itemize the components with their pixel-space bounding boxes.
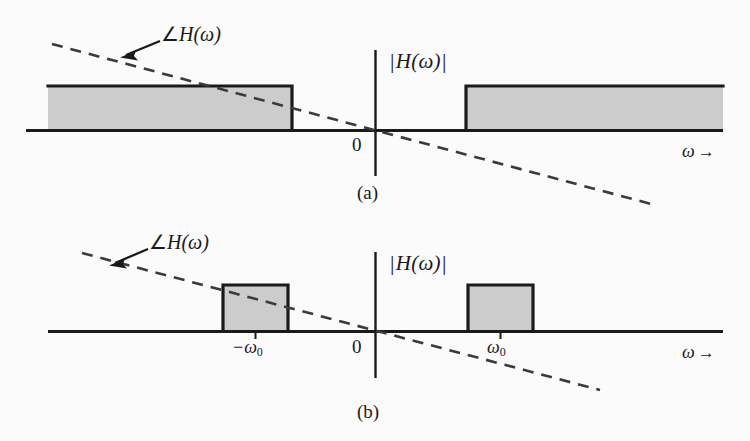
- panel-b-magnitude-label-text: H(ω): [396, 251, 441, 275]
- panel-a-magnitude-label-text: H(ω): [396, 49, 441, 73]
- panel-b-tick-positive-omega-subscript: 0: [500, 345, 506, 359]
- panel-b-phase-label: ∠H(ω): [149, 230, 209, 254]
- panel-a-band-right-fill: [466, 87, 723, 130]
- panel-b-tick-label-positive-omega0: ω0: [487, 337, 506, 360]
- panel-b-band-right-fill: [469, 286, 533, 331]
- panel-a-graphics: [26, 41, 730, 205]
- panel-b-phase-label-text: H(ω): [167, 231, 209, 253]
- panel-a-magnitude-bar-left: |: [389, 48, 396, 73]
- panel-b-omega-arrow-glyph: →: [695, 343, 715, 362]
- panel-b-tick-negative-omega-symbol: −ω: [232, 337, 257, 357]
- panel-b-tick-positive-omega-symbol: ω: [487, 337, 500, 357]
- panel-b-origin-label: 0: [352, 336, 362, 358]
- panel-b-tick-negative-omega-subscript: 0: [257, 345, 263, 359]
- panel-b-phase-angle-symbol: ∠: [149, 231, 167, 253]
- panel-a-caption: (a): [357, 182, 378, 204]
- panel-b-magnitude-bar-left: |: [389, 250, 396, 275]
- panel-a-magnitude-label: |H(ω)|: [389, 48, 448, 74]
- figure-vector-layer: [0, 0, 750, 441]
- panel-b-magnitude-bar-right: |: [441, 250, 448, 275]
- panel-a-phase-angle-symbol: ∠: [161, 23, 179, 45]
- panel-a-magnitude-bar-right: |: [441, 48, 448, 73]
- panel-a-phase-annotation-arrow: [120, 41, 160, 61]
- panel-b-tick-label-negative-omega0: −ω0: [232, 337, 263, 360]
- panel-b-caption: (b): [357, 401, 379, 423]
- panel-b-graphics: [48, 249, 723, 390]
- panel-a-omega-axis-label: ω→: [682, 141, 715, 162]
- panel-a-phase-label: ∠H(ω): [161, 22, 221, 46]
- panel-a-omega-arrow-glyph: →: [695, 142, 715, 161]
- panel-a-origin-label: 0: [352, 134, 362, 156]
- panel-b-magnitude-label: |H(ω)|: [389, 250, 448, 276]
- panel-a-phase-label-text: H(ω): [179, 23, 221, 45]
- panel-b-omega-axis-label: ω→: [682, 342, 715, 363]
- figure-canvas: ∠H(ω) |H(ω)| 0 ω→ (a) ∠H(ω) |H(ω)| −ω0 0…: [0, 0, 750, 441]
- panel-b-omega-symbol: ω: [682, 342, 695, 362]
- panel-a-band-left-fill: [48, 87, 292, 130]
- panel-a-omega-symbol: ω: [682, 141, 695, 161]
